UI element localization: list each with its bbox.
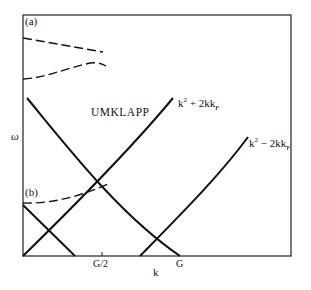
umklapp-label: UMKLAPP — [91, 106, 149, 118]
curve-k2-minus-2kkF — [140, 137, 248, 256]
y-axis-label: ω — [11, 130, 19, 142]
tick-label-g: G — [176, 258, 183, 269]
dashed-branch-lower — [23, 63, 106, 79]
dashed-branch-upper — [23, 38, 103, 52]
panel-label-a: (a) — [25, 15, 37, 27]
curve-label-plus: k2 + 2kkF — [178, 96, 219, 112]
panel-label-b: (b) — [25, 186, 38, 198]
tick-label-g-half: G/2 — [93, 258, 108, 269]
x-axis-label: k — [153, 266, 159, 278]
curve-label-minus: k2 − 2kkF — [249, 136, 290, 152]
